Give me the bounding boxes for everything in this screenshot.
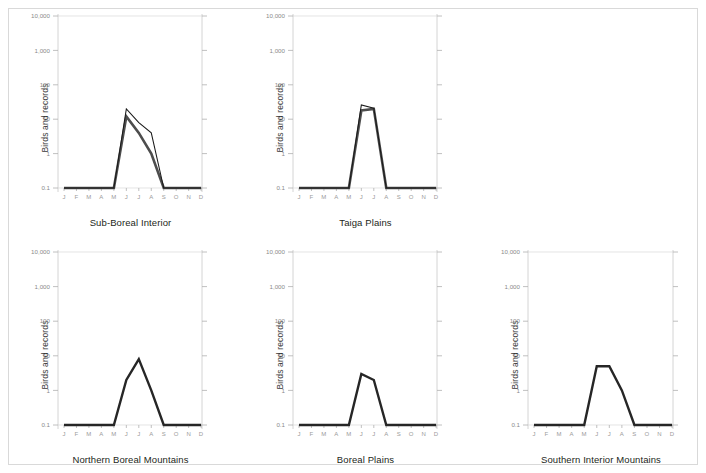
series-line-records [299,109,436,188]
chart-panel-empty [470,0,706,236]
y-tick-label-5: 0.1 [41,421,50,428]
chart-panel-southern-interior-mountains: Birds and records 10,0001,0001001010.1JF… [470,236,706,473]
figure-page: Birds and records 10,0001,0001001010.1JF… [0,0,706,473]
x-tick-label-9: O [409,431,414,437]
x-tick-label-10: N [186,431,191,437]
chart-title-3: Boreal Plains [235,454,470,465]
chart-panel-northern-boreal-mountains: Birds and records 10,0001,0001001010.1JF… [0,236,235,473]
x-tick-label-6: J [137,431,140,437]
y-tick-label-3: 10 [43,352,50,359]
x-tick-label-0: J [62,194,65,200]
x-tick-label-4: M [111,431,116,437]
x-tick-label-4: M [346,194,351,200]
y-tick-label-4: 1 [47,150,51,157]
series-line-birds-and-records [534,366,672,425]
x-tick-label-1: F [310,194,314,200]
x-tick-label-0: J [532,431,535,437]
x-tick-label-4: M [582,431,587,437]
x-tick-label-6: J [608,431,611,437]
plot-area-1: Birds and records 10,0001,0001001010.1JF… [235,0,470,236]
x-tick-label-8: S [632,431,636,437]
x-tick-label-9: O [174,194,179,200]
y-tick-label-5: 0.1 [276,421,285,428]
x-tick-label-8: S [162,194,166,200]
chart-title-4: Southern Interior Mountains [470,454,706,465]
x-tick-label-2: M [321,194,326,200]
y-tick-label-1: 1,000 [35,283,51,290]
x-tick-label-11: D [434,431,439,437]
series-line-birds-and-records [299,374,436,425]
y-tick-label-5: 0.1 [511,421,520,428]
x-tick-label-7: A [384,194,388,200]
x-tick-label-10: N [186,194,191,200]
x-tick-label-10: N [421,194,426,200]
y-tick-label-4: 1 [282,387,286,394]
x-tick-label-7: A [149,194,153,200]
y-tick-label-3: 10 [43,115,50,122]
x-tick-label-1: F [310,431,314,437]
x-tick-label-3: A [334,194,338,200]
x-tick-label-9: O [645,431,650,437]
x-tick-label-5: J [595,431,598,437]
x-tick-label-6: J [137,194,140,200]
x-tick-label-2: M [321,431,326,437]
x-tick-label-5: J [125,194,128,200]
y-tick-label-5: 0.1 [41,184,50,191]
x-tick-label-7: A [149,431,153,437]
chart-svg-3: 10,0001,0001001010.1JFMAMJJASOND [235,236,470,473]
series-line-birds [299,105,436,188]
x-tick-label-1: F [545,431,549,437]
x-tick-label-10: N [657,431,662,437]
y-tick-label-3: 10 [513,352,520,359]
y-tick-label-0: 10,000 [266,248,285,255]
y-tick-label-1: 1,000 [505,283,521,290]
x-tick-label-3: A [99,431,103,437]
y-tick-label-0: 10,000 [501,248,520,255]
x-tick-label-1: F [75,194,79,200]
x-tick-label-11: D [670,431,675,437]
plot-area-4: Birds and records 10,0001,0001001010.1JF… [470,236,706,473]
y-tick-label-4: 1 [47,387,51,394]
x-tick-label-8: S [397,194,401,200]
y-tick-label-1: 1,000 [270,47,286,54]
x-tick-label-0: J [297,431,300,437]
y-tick-label-2: 100 [275,81,286,88]
y-tick-label-1: 1,000 [270,283,286,290]
x-tick-label-4: M [111,194,116,200]
x-tick-label-10: N [421,431,426,437]
chart-svg-1: 10,0001,0001001010.1JFMAMJJASOND [235,0,470,236]
y-tick-label-3: 10 [278,115,285,122]
plot-area-0: Birds and records 10,0001,0001001010.1JF… [0,0,235,236]
x-tick-label-1: F [75,431,79,437]
x-tick-label-9: O [409,194,414,200]
chart-svg-4: 10,0001,0001001010.1JFMAMJJASOND [470,236,706,473]
x-tick-label-3: A [99,194,103,200]
chart-panel-sub-boreal-interior: Birds and records 10,0001,0001001010.1JF… [0,0,235,236]
x-tick-label-6: J [372,431,375,437]
x-tick-label-11: D [434,194,439,200]
x-tick-label-8: S [397,431,401,437]
chart-panel-boreal-plains: Birds and records 10,0001,0001001010.1JF… [235,236,470,473]
y-tick-label-2: 100 [510,317,521,324]
series-line-birds-and-records [64,359,201,425]
plot-area-3: Birds and records 10,0001,0001001010.1JF… [235,236,470,473]
chart-panel-taiga-plains: Birds and records 10,0001,0001001010.1JF… [235,0,470,236]
series-line-birds [64,109,201,188]
chart-svg-2: 10,0001,0001001010.1JFMAMJJASOND [0,236,235,473]
chart-title-0: Sub-Boreal Interior [0,217,235,228]
y-tick-label-2: 100 [275,317,286,324]
y-tick-label-2: 100 [40,81,51,88]
plot-area-2: Birds and records 10,0001,0001001010.1JF… [0,236,235,473]
x-tick-label-5: J [360,431,363,437]
series-line-records [64,116,201,188]
y-tick-label-0: 10,000 [31,248,50,255]
x-tick-label-0: J [297,194,300,200]
y-tick-label-4: 1 [282,150,286,157]
y-tick-label-2: 100 [40,317,51,324]
chart-svg-0: 10,0001,0001001010.1JFMAMJJASOND [0,0,235,236]
y-tick-label-3: 10 [278,352,285,359]
x-tick-label-9: O [174,431,179,437]
x-tick-label-7: A [620,431,624,437]
y-tick-label-0: 10,000 [31,12,50,19]
x-tick-label-0: J [62,431,65,437]
